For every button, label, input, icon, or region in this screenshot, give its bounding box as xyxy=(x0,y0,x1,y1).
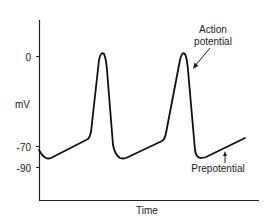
prepotential-arrow-icon xyxy=(223,151,227,163)
x-axis-label: Time xyxy=(136,205,158,216)
tick-label-0: 0 xyxy=(25,52,31,63)
membrane-potential-trace xyxy=(39,53,245,158)
prepotential-label: Prepotential xyxy=(191,163,244,174)
tick-label-minus70: -70 xyxy=(17,142,32,153)
action-potential-label-line2: potential xyxy=(194,36,232,47)
action-potential-arrow-icon xyxy=(193,48,210,69)
y-axis-label: mV xyxy=(15,99,30,110)
pacemaker-potential-diagram: 0 mV -70 -90 Action potential Prepotenti… xyxy=(0,0,271,223)
tick-label-minus90: -90 xyxy=(17,163,32,174)
action-potential-label-line1: Action xyxy=(199,24,227,35)
